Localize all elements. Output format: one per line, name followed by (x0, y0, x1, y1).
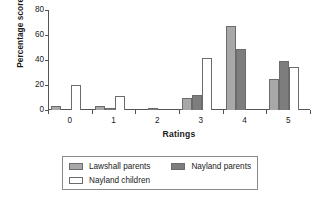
bar-group (92, 10, 136, 110)
y-axis-tick-label: 20 (35, 81, 44, 89)
legend-swatch-icon (69, 163, 83, 170)
bars-container (48, 10, 310, 110)
x-axis-tick-label: 4 (223, 115, 267, 127)
y-axis-tick-label: 40 (35, 56, 44, 64)
bar (192, 95, 202, 110)
x-axis-tick-labels: 012345 (48, 115, 310, 127)
legend-label: Nayland children (89, 177, 150, 185)
legend-item-nayland-children: Nayland children (69, 177, 173, 185)
y-axis-tick-labels: 020406080 (22, 10, 44, 110)
bar (289, 67, 299, 110)
y-axis-tick-label: 80 (35, 6, 44, 14)
axes (48, 10, 310, 110)
bar-group (48, 10, 92, 110)
bar (269, 79, 279, 110)
y-axis-tick-mark (45, 10, 48, 11)
bar (115, 96, 125, 110)
bar-chart: Percentage scores 020406080 012345 Ratin… (0, 0, 324, 204)
bar-group (179, 10, 223, 110)
y-axis-tick-mark (45, 35, 48, 36)
bar (279, 61, 289, 110)
x-axis-tick-mark (92, 110, 93, 114)
x-axis-label: Ratings (48, 129, 310, 139)
bar (226, 26, 236, 110)
legend: Lawshall parents Nayland parents Nayland… (62, 156, 258, 190)
x-axis-tick-mark (310, 110, 311, 114)
x-axis-tick-label: 3 (179, 115, 223, 127)
bar (202, 58, 212, 111)
y-axis-tick-mark (45, 85, 48, 86)
x-axis-tick-mark (266, 110, 267, 114)
x-axis-tick-label: 0 (48, 115, 92, 127)
bar-group (266, 10, 310, 110)
plot-area: Percentage scores 020406080 012345 Ratin… (0, 0, 324, 150)
y-axis-tick-mark (45, 60, 48, 61)
bar-group (223, 10, 267, 110)
x-axis-tick-mark (179, 110, 180, 114)
legend-row: Nayland children (69, 175, 251, 187)
legend-item-lawshall-parents: Lawshall parents (69, 163, 171, 171)
x-axis-tick-mark (223, 110, 224, 114)
x-axis-tick-mark (135, 110, 136, 114)
x-axis-tick-label: 1 (92, 115, 136, 127)
y-axis-tick-label: 0 (39, 106, 44, 114)
legend-label: Nayland parents (191, 163, 251, 171)
x-axis-tick-label: 5 (266, 115, 310, 127)
legend-swatch-icon (69, 177, 83, 184)
y-axis-tick-label: 60 (35, 31, 44, 39)
bar (182, 98, 192, 111)
bar (236, 49, 246, 110)
bar (71, 85, 81, 110)
x-axis-tick-marks (48, 110, 310, 114)
bar-group (135, 10, 179, 110)
x-axis-tick-label: 2 (135, 115, 179, 127)
legend-swatch-icon (171, 163, 185, 170)
legend-label: Lawshall parents (89, 163, 150, 171)
x-axis-tick-mark (48, 110, 49, 114)
legend-row: Lawshall parents Nayland parents (69, 161, 251, 173)
legend-item-nayland-parents: Nayland parents (171, 163, 251, 171)
